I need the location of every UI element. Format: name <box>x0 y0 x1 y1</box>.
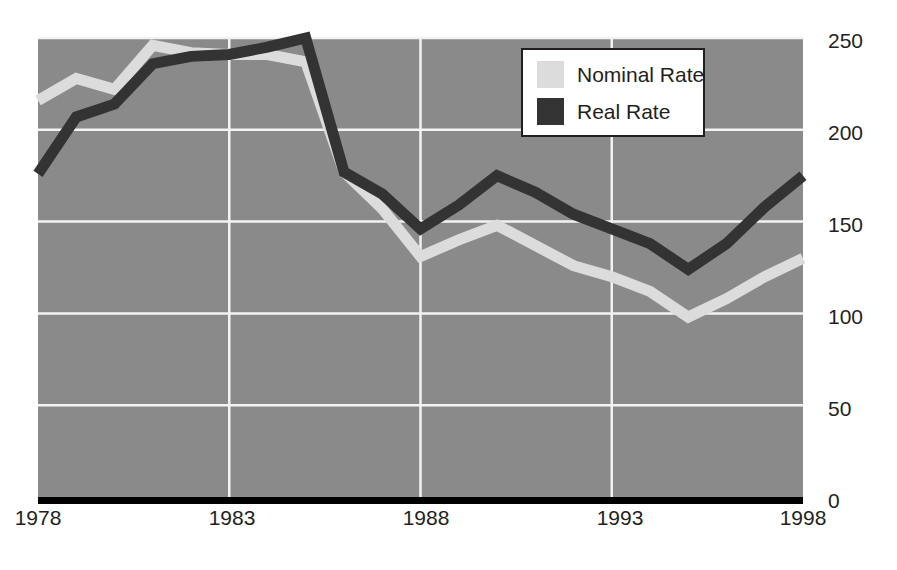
chart-legend: Nominal Rate Real Rate <box>521 48 705 137</box>
y-tick-label-50: 50 <box>828 398 851 419</box>
x-tick-label-1983: 1983 <box>204 507 260 528</box>
legend-swatch-real-rate <box>537 98 564 125</box>
x-axis-baseline <box>38 497 803 504</box>
legend-item-nominal-rate: Nominal Rate <box>537 59 704 89</box>
x-tick-label-1978: 1978 <box>10 507 66 528</box>
x-tick-label-1998: 1998 <box>775 507 831 528</box>
y-tick-label-200: 200 <box>828 122 863 143</box>
legend-label-nominal-rate: Nominal Rate <box>577 64 704 85</box>
y-tick-label-100: 100 <box>828 306 863 327</box>
legend-item-real-rate: Real Rate <box>537 96 670 126</box>
x-tick-label-1988: 1988 <box>398 507 454 528</box>
legend-swatch-nominal-rate <box>537 61 564 88</box>
legend-label-real-rate: Real Rate <box>577 101 670 122</box>
chart-container: 250 200 150 100 50 0 1978 1983 1988 1993… <box>0 0 897 570</box>
x-tick-label-1993: 1993 <box>592 507 648 528</box>
line-chart-plot <box>0 0 897 570</box>
y-tick-label-150: 150 <box>828 214 863 235</box>
y-tick-label-250: 250 <box>828 30 863 51</box>
